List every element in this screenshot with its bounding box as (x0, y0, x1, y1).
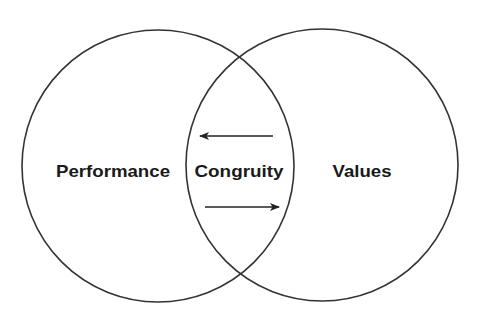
congruity-label: Congruity (195, 162, 285, 181)
values-label: Values (333, 162, 392, 181)
performance-label: Performance (56, 162, 170, 181)
venn-diagram: Performance Congruity Values (0, 0, 483, 320)
